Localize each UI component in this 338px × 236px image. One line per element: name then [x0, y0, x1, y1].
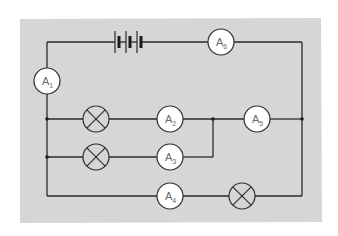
junction-node: [300, 117, 304, 121]
ammeter-a6: A6: [208, 29, 234, 55]
ammeter-a5: A5: [244, 106, 270, 132]
junction-node: [45, 155, 49, 159]
circuit-diagram: A1 A2 A3 A4 A5 A6: [0, 0, 338, 236]
ammeter-a2: A2: [157, 106, 183, 132]
ammeter-a1: A1: [34, 68, 60, 94]
ammeter-a4: A4: [157, 183, 183, 209]
junction-node: [211, 117, 215, 121]
junction-node: [45, 117, 49, 121]
ammeter-a3: A3: [157, 144, 183, 170]
